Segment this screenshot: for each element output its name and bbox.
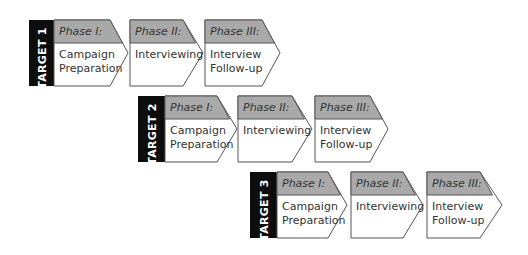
phase-chevron-2: Phase II: Interviewing [238, 96, 313, 162]
phase-line-1: Interview [432, 200, 484, 214]
phase-line-2: Preparation [59, 62, 123, 76]
phase-line-1: Interview [210, 48, 262, 62]
phase-line-2: Preparation [282, 214, 346, 228]
phase-chevron-3: Phase III: Interview Follow-up [205, 20, 281, 86]
phase-line-1: Interview [320, 124, 372, 138]
phase-chevron-1: Phase I: Campaign Preparation [165, 96, 239, 162]
phase-line-1: Interviewing [135, 48, 203, 62]
phase-line-1: Interviewing [243, 124, 311, 138]
phase-title: Phase II: [243, 101, 290, 114]
target-label: TARGET 3 [257, 179, 270, 241]
phase-chevron-2: Phase II: Interviewing [130, 20, 204, 86]
phase-description: Interview Follow-up [210, 48, 262, 76]
target-label-box: TARGET 2 [138, 96, 165, 162]
target-label-box: TARGET 3 [250, 172, 277, 238]
phase-line-2: Follow-up [320, 138, 372, 152]
target-label: TARGET 1 [35, 27, 48, 89]
phase-description: Interviewing [243, 124, 311, 138]
phase-description: Campaign Preparation [59, 48, 123, 76]
phase-description: Campaign Preparation [282, 200, 346, 228]
phase-chevron-2: Phase II: Interviewing [351, 172, 425, 238]
phase-description: Interviewing [356, 200, 424, 214]
phase-line-1: Interviewing [356, 200, 424, 214]
phase-line-2: Follow-up [210, 62, 262, 76]
target-label-box: TARGET 1 [29, 20, 54, 86]
phase-title: Phase III: [320, 101, 370, 114]
phase-chevron-1: Phase I: Campaign Preparation [54, 20, 128, 86]
phase-line-2: Follow-up [432, 214, 484, 228]
phase-line-1: Campaign [59, 48, 123, 62]
phase-title: Phase II: [135, 25, 182, 38]
phase-title: Phase I: [59, 25, 102, 38]
target-label: TARGET 2 [145, 103, 158, 165]
phase-line-1: Campaign [282, 200, 346, 214]
phase-title: Phase III: [432, 177, 482, 190]
phase-description: Campaign Preparation [170, 124, 234, 152]
phase-title: Phase II: [356, 177, 403, 190]
phase-description: Interviewing [135, 48, 203, 62]
phase-chevron-3: Phase III: Interview Follow-up [427, 172, 503, 238]
phase-line-1: Campaign [170, 124, 234, 138]
phase-title: Phase I: [282, 177, 325, 190]
phase-title: Phase I: [170, 101, 213, 114]
phase-chevron-3: Phase III: Interview Follow-up [315, 96, 389, 162]
phase-line-2: Preparation [170, 138, 234, 152]
phase-chevron-1: Phase I: Campaign Preparation [277, 172, 349, 238]
phase-description: Interview Follow-up [432, 200, 484, 228]
phase-description: Interview Follow-up [320, 124, 372, 152]
phase-title: Phase III: [210, 25, 260, 38]
